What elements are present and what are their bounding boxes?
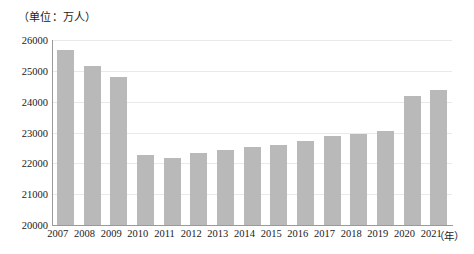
y-tick-label: 23000 [2,127,48,138]
bar [270,145,287,225]
y-tick-label: 22000 [2,158,48,169]
bar-chart: （单位：万人） 20000210002200023000240002500026… [0,0,474,254]
y-axis-tick-labels: 20000210002200023000240002500026000 [0,0,48,254]
bar [190,153,207,225]
x-axis-line [52,225,453,226]
y-tick-label: 21000 [2,189,48,200]
bar [110,77,127,225]
plot-area [52,40,452,225]
gridline [52,71,452,72]
bar [244,147,261,225]
bar [350,134,367,225]
bar [164,158,181,225]
bar [324,136,341,225]
bar [57,50,74,225]
bar [137,155,154,225]
gridline [52,40,452,41]
y-tick-label: 24000 [2,96,48,107]
y-tick-label: 25000 [2,65,48,76]
y-tick-label: 26000 [2,35,48,46]
bar [404,96,421,225]
y-axis-line [52,40,53,226]
x-axis-unit-label: （年） [434,228,464,243]
bar [430,90,447,225]
bar [377,131,394,225]
bar [84,66,101,225]
bar [297,141,314,225]
bar [217,150,234,225]
